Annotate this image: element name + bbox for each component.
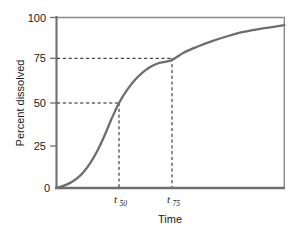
y-tick-label-75: 75	[34, 52, 46, 64]
x-marker-t50: t 50	[114, 193, 127, 208]
x-marker-t50-base: t	[114, 193, 118, 205]
x-marker-t75: t 75	[167, 193, 180, 208]
y-tick-label-100: 100	[28, 12, 46, 24]
chart-figure: 100 75 50 25 0 Percent dissolved t 50 t …	[0, 0, 298, 231]
y-tick-label-50: 50	[34, 97, 46, 109]
x-marker-t75-subscript: 75	[173, 199, 181, 208]
y-axis-title: Percent dissolved	[14, 60, 26, 147]
y-tick-label-0: 0	[44, 182, 50, 194]
x-axis-title: Time	[158, 213, 182, 225]
x-marker-t50-subscript: 50	[120, 199, 128, 208]
dissolution-chart: 100 75 50 25 0 Percent dissolved t 50 t …	[0, 0, 298, 231]
y-tick-label-25: 25	[34, 140, 46, 152]
x-marker-t75-base: t	[167, 193, 171, 205]
